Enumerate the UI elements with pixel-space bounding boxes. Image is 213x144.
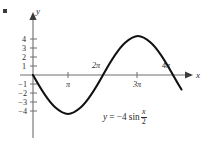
y-tick-label-neg3: −3 bbox=[18, 98, 27, 107]
equation-label: y=−4sinx2 bbox=[103, 108, 147, 126]
corner-mark-icon bbox=[3, 9, 7, 13]
x-tick-label-pi: π bbox=[66, 80, 71, 89]
equation-amplitude: −4 bbox=[117, 112, 127, 122]
equation-lhs: y bbox=[103, 112, 107, 122]
y-tick-label-neg4: −4 bbox=[18, 107, 27, 116]
graph-figure: 4 3 2 1 −1 −2 −3 −4 π 3π 2π 4π y x y=−4s… bbox=[0, 0, 213, 144]
y-tick-label-4: 4 bbox=[22, 35, 26, 44]
equation-fraction-denominator: 2 bbox=[141, 118, 147, 126]
y-tick-label-2: 2 bbox=[22, 53, 26, 62]
equation-fraction: x2 bbox=[141, 108, 147, 126]
y-tick-label-3: 3 bbox=[22, 44, 26, 53]
equation-equals: = bbox=[109, 112, 114, 122]
y-axis-name: y bbox=[35, 6, 40, 16]
equation-func: sin bbox=[129, 112, 140, 122]
equation-fraction-numerator: x bbox=[141, 108, 147, 116]
x-axis-name: x bbox=[195, 70, 200, 80]
x-tick-label-3pi: 3π bbox=[132, 80, 142, 89]
y-tick-label-1: 1 bbox=[22, 62, 26, 71]
x-tick-label-2pi: 2π bbox=[92, 61, 101, 70]
y-tick-label-neg1: −1 bbox=[18, 80, 27, 89]
y-tick-label-neg2: −2 bbox=[18, 89, 27, 98]
x-axis-arrow-icon bbox=[185, 71, 193, 78]
